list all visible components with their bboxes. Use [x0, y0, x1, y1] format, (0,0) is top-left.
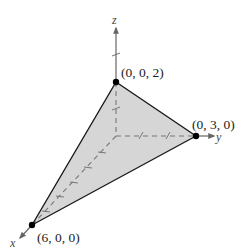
z-axis-label: z [111, 13, 117, 27]
point-y-intercept [193, 133, 199, 139]
plane-triangle [32, 82, 196, 225]
label-z-intercept: (0, 0, 2) [121, 65, 164, 80]
x-axis-label: x [9, 236, 16, 249]
point-z-intercept [113, 79, 119, 85]
plane-diagram: z y x (0, 0, 2) (0, 3, 0) (6, 0, 0) [0, 0, 244, 249]
y-axis-label: y [215, 130, 222, 144]
point-x-intercept [29, 222, 35, 228]
label-y-intercept: (0, 3, 0) [192, 117, 235, 132]
label-x-intercept: (6, 0, 0) [37, 230, 80, 245]
